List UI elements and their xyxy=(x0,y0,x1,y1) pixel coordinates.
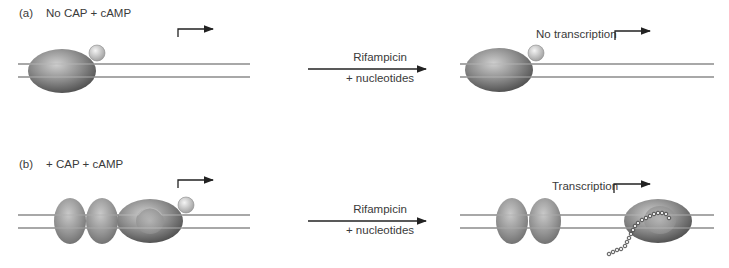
rna-nucleotide-bead xyxy=(629,232,633,236)
result-label-b: Transcription xyxy=(552,180,618,192)
rna-nucleotide-bead xyxy=(619,247,623,251)
promoter-arrow-icon xyxy=(615,31,650,40)
rna-nucleotide-bead xyxy=(640,218,644,222)
reaction-reagent-label: Rifampicin xyxy=(353,51,407,63)
sigma-factor xyxy=(89,45,105,61)
result-label-a: No transcription xyxy=(536,28,617,40)
rna-nucleotide-bead xyxy=(615,248,619,252)
rna-nucleotide-bead xyxy=(644,216,648,220)
panel-a: (a) No CAP + cAMP Rifampicin + nucleotid… xyxy=(18,7,714,93)
rna-nucleotide-bead xyxy=(625,240,629,244)
rna-nucleotide-bead xyxy=(636,221,640,225)
panel-b-condition: + CAP + cAMP xyxy=(46,158,123,170)
reaction-arrow-b: Rifampicin + nucleotides xyxy=(308,203,426,236)
reaction-nucleotides-label: + nucleotides xyxy=(346,224,414,236)
sigma-factor xyxy=(178,197,194,213)
panel-a-condition: No CAP + cAMP xyxy=(46,7,131,19)
promoter-arrow-icon xyxy=(614,184,650,193)
rna-polymerase xyxy=(465,48,533,92)
rna-nucleotide-bead xyxy=(660,211,664,215)
cap-subunit xyxy=(496,198,528,244)
rna-nucleotide-bead xyxy=(631,228,635,232)
rna-nucleotide-bead xyxy=(652,212,656,216)
panel-b: (b) + CAP + cAMP Rifampicin + nucleotide… xyxy=(18,158,714,256)
cap-subunit xyxy=(54,198,86,244)
diagram-canvas: (a) No CAP + cAMP Rifampicin + nucleotid… xyxy=(0,0,729,268)
promoter-arrow-icon xyxy=(178,29,213,37)
rna-nucleotide-bead xyxy=(667,216,671,220)
reaction-reagent-label: Rifampicin xyxy=(353,203,407,215)
transcription-bubble xyxy=(644,206,676,234)
reaction-nucleotides-label: + nucleotides xyxy=(346,72,414,84)
cap-subunit xyxy=(86,198,118,244)
rna-nucleotide-bead xyxy=(611,250,615,254)
rna-polymerase xyxy=(28,49,96,93)
rna-nucleotide-bead xyxy=(607,252,611,256)
rna-nucleotide-bead xyxy=(664,212,668,216)
cap-subunit xyxy=(529,198,561,244)
rna-nucleotide-bead xyxy=(633,224,637,228)
rna-nucleotide-bead xyxy=(656,211,660,215)
rna-nucleotide-bead xyxy=(648,214,652,218)
panel-b-letter: (b) xyxy=(19,158,33,170)
promoter-arrow-icon xyxy=(178,180,213,188)
rna-nucleotide-bead xyxy=(623,244,627,248)
reaction-arrow-a: Rifampicin + nucleotides xyxy=(308,51,426,84)
rna-nucleotide-bead xyxy=(627,236,631,240)
panel-a-letter: (a) xyxy=(19,7,33,19)
sigma-factor xyxy=(528,45,544,61)
